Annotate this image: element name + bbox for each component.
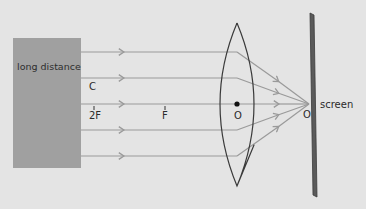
- lens-center-dot: [234, 101, 239, 106]
- label-c: C: [89, 82, 96, 92]
- label-2f: 2F: [89, 111, 101, 121]
- ray-diagram: long distance: [0, 0, 366, 209]
- label-f: F: [162, 111, 168, 121]
- label-image-point: O: [303, 110, 311, 120]
- refracted-rays: [237, 52, 309, 156]
- screen: [310, 13, 317, 197]
- incoming-rays: [81, 52, 237, 156]
- label-lens-center: O: [234, 111, 242, 121]
- diagram-graphics: [0, 0, 366, 209]
- label-screen: screen: [320, 100, 353, 110]
